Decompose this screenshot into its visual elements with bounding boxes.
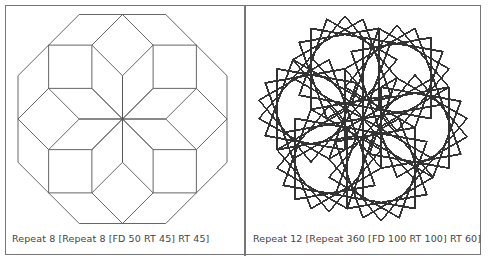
- right-caption: Repeat 12 [Repeat 360 [FD 100 RT 100] RT…: [253, 233, 481, 244]
- right-turtle-path: [259, 16, 467, 221]
- right-turtle-drawing: [0, 0, 490, 266]
- left-caption: Repeat 8 [Repeat 8 [FD 50 RT 45] RT 45]: [12, 233, 209, 244]
